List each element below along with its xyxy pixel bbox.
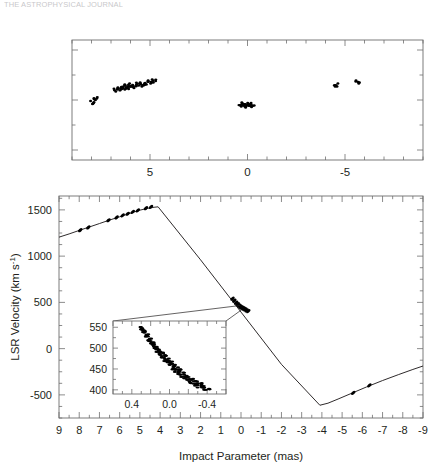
main-y-ticklabel: -500 <box>30 389 52 401</box>
sky-maser-spot <box>145 83 148 85</box>
inset-maser-spot <box>173 369 177 371</box>
sky-maser-spot <box>336 82 339 84</box>
sky-maser-spot <box>124 84 127 86</box>
sky-maser-spot <box>333 84 336 86</box>
inset-frame <box>113 321 226 394</box>
inset-maser-spot <box>208 388 212 390</box>
sky-maser-spot <box>240 101 243 103</box>
main-x-ticklabel: -4 <box>317 424 327 436</box>
main-x-ticklabel: 1 <box>218 424 224 436</box>
main-y-ticklabel: 0 <box>46 343 52 355</box>
main-x-ticklabel: 6 <box>117 424 123 436</box>
sky-x-ticklabel: 0 <box>244 166 250 178</box>
sky-maser-spot <box>253 104 256 106</box>
sky-maser-spot <box>118 89 121 91</box>
sky-maser-spot <box>354 79 357 81</box>
sky-maser-spot <box>91 103 94 105</box>
main-y-ticklabel: 500 <box>34 296 52 308</box>
main-x-ticklabel: 3 <box>177 424 183 436</box>
sky-maser-spot <box>131 86 134 88</box>
main-x-ticklabel: -3 <box>297 424 307 436</box>
sky-maser-spot <box>96 96 99 98</box>
inset-maser-spot <box>178 369 182 371</box>
sky-maser-spot <box>112 87 115 89</box>
inset-maser-spot <box>189 379 193 381</box>
inset-x-ticklabel: 0.4 <box>125 398 140 410</box>
inset-maser-spot <box>178 374 182 376</box>
sky-maser-spot <box>114 90 117 92</box>
sky-panel-x-ticklabels: 50-5 <box>147 166 350 178</box>
sky-maser-spot <box>154 78 157 80</box>
sky-maser-spot <box>358 81 361 83</box>
sky-distribution-panel: 50-5 <box>72 40 423 178</box>
sky-maser-spot <box>89 100 92 102</box>
inset-maser-spot <box>161 352 165 354</box>
y-axis-title-close: ) <box>9 253 21 257</box>
main-y-ticklabel: 1000 <box>28 250 52 262</box>
sky-maser-spot <box>93 98 96 100</box>
inset-maser-spot <box>202 389 206 391</box>
sky-maser-spot <box>151 79 154 81</box>
position-velocity-panel: 9876543210-1-2-3-4-5-6-7-8-9 15001000500… <box>28 196 428 436</box>
inset-maser-spot <box>195 386 199 388</box>
sky-maser-spot <box>147 79 150 81</box>
inset-maser-spot <box>158 353 162 355</box>
y-axis-title-main: LSR Velocity (km s <box>9 264 21 361</box>
sky-maser-spot <box>121 85 124 87</box>
inset-maser-spot <box>185 379 189 381</box>
inset-maser-spot <box>165 360 169 362</box>
inset-maser-spot <box>149 342 153 344</box>
inset-y-ticklabel: 400 <box>89 384 107 396</box>
main-panel-x-ticklabels: 9876543210-1-2-3-4-5-6-7-8-9 <box>56 424 428 436</box>
x-axis-title: Impact Parameter (mas) <box>179 450 303 462</box>
sky-maser-spot <box>128 82 131 84</box>
sky-maser-spot <box>117 87 120 89</box>
sky-maser-spot <box>127 88 130 90</box>
main-x-ticklabel: -9 <box>418 424 428 436</box>
inset-maser-spot <box>155 346 159 348</box>
main-y-ticklabel: 1500 <box>28 204 52 216</box>
clipped-header-text: THE ASTROPHYSICAL JOURNAL <box>4 0 304 9</box>
main-x-ticklabel: 9 <box>56 424 62 436</box>
y-axis-title-group: LSR Velocity (km s-1) <box>8 253 21 361</box>
main-x-ticklabel: -5 <box>337 424 347 436</box>
inset-maser-spot <box>173 364 177 366</box>
main-x-ticklabel: 8 <box>76 424 82 436</box>
inset-y-ticklabel: 550 <box>89 321 107 333</box>
main-x-ticklabel: 2 <box>197 424 203 436</box>
main-x-ticklabel: 4 <box>157 424 163 436</box>
main-x-ticklabel: -6 <box>357 424 367 436</box>
main-x-ticklabel: -2 <box>277 424 287 436</box>
sky-maser-spot <box>246 102 249 104</box>
inset-y-ticklabel: 450 <box>89 363 107 375</box>
sky-maser-spot <box>335 85 338 87</box>
main-x-ticklabel: -8 <box>398 424 408 436</box>
inset-maser-spot <box>160 355 164 357</box>
inset-maser-spot <box>183 376 187 378</box>
main-panel-y-ticklabels: 150010005000-500 <box>28 204 52 401</box>
main-x-ticklabel: 0 <box>238 424 244 436</box>
inset-maser-spot <box>195 384 199 386</box>
inset-maser-spot <box>144 334 148 336</box>
inset-maser-spot <box>176 366 180 368</box>
inset-maser-spot <box>142 329 146 331</box>
sky-maser-spot <box>140 83 143 85</box>
sky-x-ticklabel: -5 <box>340 166 350 178</box>
main-x-ticklabel: 5 <box>137 424 143 436</box>
sky-maser-spot <box>250 104 253 106</box>
inset-x-ticklabel: -0.4 <box>198 398 216 410</box>
inset-maser-spot <box>202 387 206 389</box>
inset-x-ticklabels: 0.40.0-0.4 <box>125 398 217 410</box>
inset-y-ticklabel: 500 <box>89 342 107 354</box>
inset-x-ticklabel: 0.0 <box>162 398 177 410</box>
y-axis-title: LSR Velocity (km s-1) <box>8 253 21 361</box>
inset-maser-spot <box>176 372 180 374</box>
figure-canvas: 50-5 9876543210-1-2-3-4-5-6-7-8-9 150010… <box>0 0 437 472</box>
sky-panel-frame <box>72 40 423 160</box>
main-x-ticklabel: 7 <box>96 424 102 436</box>
inset-maser-spot <box>167 358 171 360</box>
main-x-ticklabel: -7 <box>378 424 388 436</box>
main-x-ticklabel: -1 <box>256 424 266 436</box>
inset-maser-spot <box>195 380 199 382</box>
sky-x-ticklabel: 5 <box>147 166 153 178</box>
